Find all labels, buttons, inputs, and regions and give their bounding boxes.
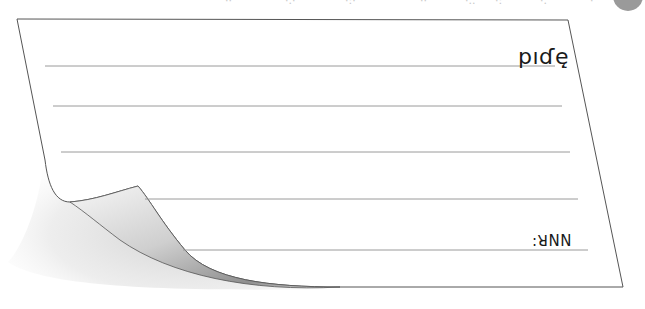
top-fragment: ·· bbox=[420, 0, 427, 7]
title-label: pıɗę̣ bbox=[518, 44, 569, 69]
top-fragment: ·· bbox=[225, 0, 232, 7]
top-fragment: ·: bbox=[495, 0, 502, 7]
partial-circle-icon bbox=[613, 0, 643, 11]
top-fragment: ·.. bbox=[465, 0, 476, 7]
top-fragment: ·.· bbox=[285, 0, 296, 7]
top-fragment: · bbox=[590, 0, 594, 7]
top-fragment: ·:· bbox=[345, 0, 356, 7]
top-fragment: ·. bbox=[540, 0, 547, 7]
signature-label: :ꓤNN bbox=[532, 232, 572, 250]
